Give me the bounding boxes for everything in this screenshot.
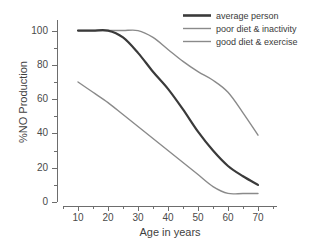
- x-axis-tick-label: 60: [213, 212, 243, 223]
- x-axis-minor-tick: [273, 206, 274, 209]
- x-axis-minor-tick: [123, 206, 124, 209]
- y-axis-tick-label: 0: [0, 197, 48, 207]
- legend-item: good diet & exercise: [183, 36, 298, 47]
- x-axis-minor-tick: [243, 206, 244, 209]
- x-axis-tick-label: 70: [243, 212, 273, 223]
- legend-line-swatch: [183, 25, 211, 32]
- x-axis-tick-label: 30: [123, 212, 153, 223]
- x-axis-minor-tick: [153, 206, 154, 209]
- x-axis-tick: [228, 206, 229, 211]
- y-axis-tick: [52, 133, 57, 134]
- x-axis-title: Age in years: [60, 226, 280, 238]
- y-axis-minor-tick: [54, 185, 57, 186]
- x-axis-tick-label: 50: [183, 212, 213, 223]
- y-axis-minor-tick: [54, 151, 57, 152]
- series-line: [78, 82, 258, 194]
- y-axis-tick: [52, 168, 57, 169]
- x-axis-tick-label: 40: [153, 212, 183, 223]
- y-axis-tick: [52, 65, 57, 66]
- legend-item-label: poor diet & inactivity: [216, 24, 297, 34]
- legend-item: average person: [183, 10, 298, 21]
- y-axis-minor-tick: [54, 116, 57, 117]
- legend-item-label: average person: [216, 11, 279, 21]
- y-axis-line: [57, 20, 58, 202]
- x-axis-minor-tick: [213, 206, 214, 209]
- y-axis-tick: [52, 202, 57, 203]
- x-axis-line: [63, 206, 277, 207]
- x-axis-tick: [168, 206, 169, 211]
- y-axis-title: %NO Production: [17, 32, 29, 172]
- y-axis-minor-tick: [54, 82, 57, 83]
- x-axis-minor-tick: [93, 206, 94, 209]
- legend-line-swatch: [183, 12, 211, 19]
- y-axis-tick: [52, 99, 57, 100]
- x-axis-tick: [78, 206, 79, 211]
- x-axis-minor-tick: [183, 206, 184, 209]
- legend-item-label: good diet & exercise: [216, 37, 298, 47]
- series-line: [78, 30, 258, 185]
- y-axis-minor-tick: [54, 48, 57, 49]
- x-axis-tick-label: 20: [93, 212, 123, 223]
- x-axis-tick: [138, 206, 139, 211]
- x-axis-tick: [198, 206, 199, 211]
- legend-item: poor diet & inactivity: [183, 23, 298, 34]
- y-axis-tick: [52, 31, 57, 32]
- x-axis-minor-tick: [63, 206, 64, 209]
- chart-figure: 020406080100 %NO Production 102030405060…: [0, 0, 311, 250]
- x-axis-tick: [258, 206, 259, 211]
- chart-legend: average person poor diet & inactivity go…: [183, 10, 298, 47]
- x-axis-tick: [108, 206, 109, 211]
- x-axis-tick-label: 10: [63, 212, 93, 223]
- legend-line-swatch: [183, 38, 211, 45]
